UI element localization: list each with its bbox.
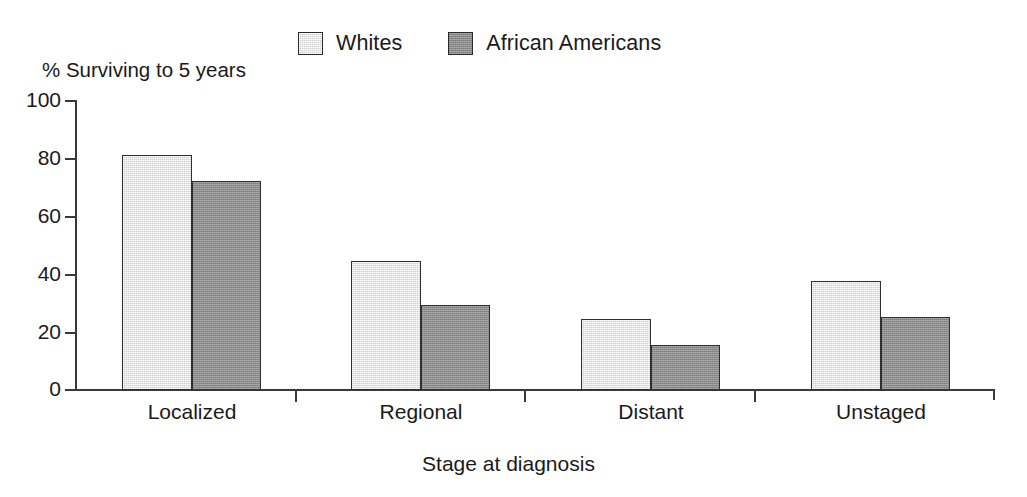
x-category-label-unstaged: Unstaged [801, 400, 961, 424]
bar-chart-figure: Whites African Americans % Surviving to … [0, 0, 1027, 497]
y-axis-line [75, 100, 77, 391]
y-tick-label-80: 80 [6, 146, 61, 170]
bar-whites-localized [122, 155, 192, 390]
y-tick-mark [65, 216, 76, 218]
x-category-label-localized: Localized [112, 400, 272, 424]
bar-whites-distant [581, 319, 651, 390]
bar-african-americans-distant [651, 345, 720, 390]
y-tick-label-100: 100 [6, 88, 61, 112]
plot-area: 100 80 60 40 20 0 Localized Regional Dis… [0, 0, 1027, 497]
x-category-label-regional: Regional [341, 400, 501, 424]
y-tick-mark [65, 100, 76, 102]
x-tick-mark [754, 391, 756, 402]
y-tick-mark [65, 274, 76, 276]
x-axis-title: Stage at diagnosis [0, 452, 1027, 476]
y-tick-mark [65, 158, 76, 160]
x-category-label-distant: Distant [571, 400, 731, 424]
x-axis-end-tick [993, 389, 995, 400]
y-tick-label-0: 0 [6, 377, 61, 401]
bar-african-americans-unstaged [881, 317, 950, 390]
bar-african-americans-regional [421, 305, 490, 390]
y-tick-label-20: 20 [6, 320, 61, 344]
x-axis-title-text: Stage at diagnosis [422, 452, 595, 475]
x-tick-mark [524, 391, 526, 402]
y-tick-mark [65, 389, 76, 391]
y-tick-mark [65, 332, 76, 334]
bar-whites-regional [351, 261, 421, 390]
bar-african-americans-localized [192, 181, 261, 390]
x-tick-mark [295, 391, 297, 402]
y-tick-label-60: 60 [6, 204, 61, 228]
bar-whites-unstaged [811, 281, 881, 390]
y-tick-label-40: 40 [6, 262, 61, 286]
